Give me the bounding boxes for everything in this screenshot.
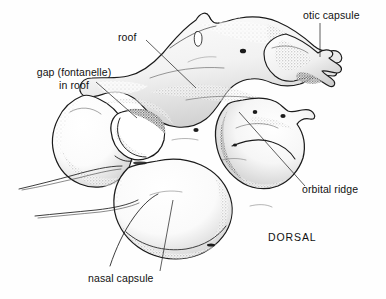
fontanelle-slit <box>133 161 147 164</box>
foramen-orbital-1 <box>253 110 258 114</box>
foramen-nasal-main <box>207 244 215 247</box>
label-nasal-capsule: nasal capsule <box>88 272 154 285</box>
label-dorsal-view: DORSAL <box>268 231 317 244</box>
label-gap-line1: gap (fontanelle) <box>21 66 127 79</box>
roof-fenestra <box>194 31 202 46</box>
anatomical-figure: otic capsule roof gap (fontanelle) in ro… <box>0 0 386 299</box>
foramen-orbital-3 <box>233 143 237 146</box>
label-roof: roof <box>118 31 137 44</box>
label-otic-capsule: otic capsule <box>303 9 360 22</box>
chondrocranium-drawing <box>0 0 386 299</box>
label-orbital-ridge: orbital ridge <box>302 183 358 196</box>
foramen-roof-2 <box>240 49 246 54</box>
foramen-roof-1 <box>193 128 198 132</box>
label-gap-line2: in roof <box>21 79 127 92</box>
foramen-orbital-2 <box>280 114 285 118</box>
label-gap-fontanelle: gap (fontanelle) in roof <box>21 66 127 92</box>
